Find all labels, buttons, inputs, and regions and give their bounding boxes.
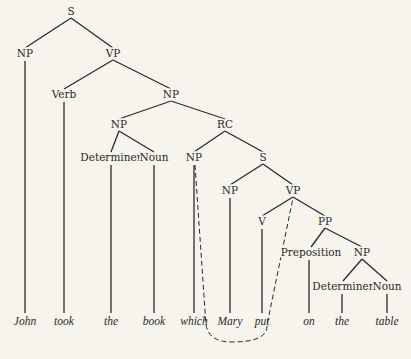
word-put: put [254, 315, 271, 328]
word-the: the [335, 315, 349, 327]
node-label-noun: Noun [372, 280, 401, 292]
word-mary: Mary [217, 315, 244, 328]
node-label-determiner: Determiner [312, 280, 374, 292]
tree-edge [230, 164, 263, 185]
tree-edge [325, 228, 362, 247]
tree-edge [64, 60, 113, 89]
tree-edge [311, 228, 325, 247]
tree-edge [225, 131, 263, 152]
node-label-vp: VP [285, 184, 301, 196]
tree-edge [194, 131, 225, 152]
word-book: book [143, 315, 166, 327]
node-label-np: NP [163, 88, 179, 100]
node-label-s: S [259, 151, 266, 163]
word-john: John [14, 315, 37, 327]
tree-canvas: SNPVPVerbNPNPRCDeterminerNounNPSNPVPVPPP… [0, 0, 411, 359]
tree-edge [25, 18, 71, 48]
node-label-np: NP [17, 47, 33, 59]
tree-edge [119, 101, 171, 119]
node-label-pp: PP [318, 215, 332, 227]
tree-edge [293, 197, 325, 216]
tree-edge [343, 259, 362, 281]
node-label-noun: Noun [139, 151, 168, 163]
node-label-np: NP [186, 151, 202, 163]
word-the: the [104, 315, 118, 327]
tree-edge [171, 101, 225, 119]
tree-edge [119, 131, 154, 152]
node-label-vp: VP [105, 47, 121, 59]
node-label-determiner: Determiner [80, 151, 142, 163]
tree-edge [362, 259, 387, 281]
word-took: took [54, 315, 75, 327]
tree-edge [263, 164, 293, 185]
word-which: which [180, 315, 208, 327]
node-label-np: NP [111, 118, 127, 130]
tree-edge [71, 18, 113, 48]
node-label-np: NP [354, 246, 370, 258]
node-label-preposition: Preposition [281, 246, 342, 258]
node-label-verb: Verb [51, 88, 77, 100]
node-label-rc: RC [217, 118, 233, 130]
word-on: on [303, 315, 315, 327]
node-label-s: S [67, 5, 74, 17]
tree-edge [113, 60, 171, 89]
dashed-gap-link [195, 165, 293, 342]
syntax-tree-diagram: SNPVPVerbNPNPRCDeterminerNounNPSNPVPVPPP… [0, 0, 411, 359]
word-table: table [376, 315, 399, 327]
node-label-np: NP [222, 184, 238, 196]
tree-edge [262, 197, 293, 216]
tree-edge [111, 131, 119, 152]
node-label-v: V [257, 215, 266, 227]
